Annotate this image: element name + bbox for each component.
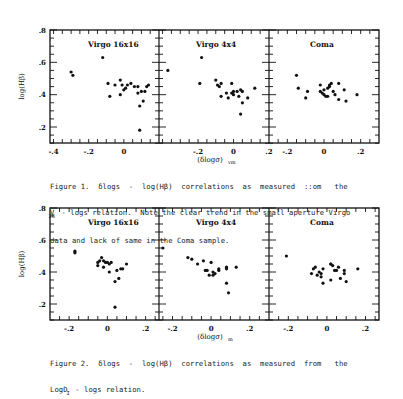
data-point xyxy=(220,82,223,85)
data-point xyxy=(337,82,340,85)
data-point xyxy=(216,83,219,86)
data-point xyxy=(126,83,129,86)
data-point xyxy=(196,262,199,265)
data-point xyxy=(304,96,307,99)
data-point xyxy=(230,82,233,85)
caption-line: Figure 2. δlogs - log(Hβ) correlations a… xyxy=(50,360,348,369)
data-point xyxy=(121,267,124,270)
data-point xyxy=(225,92,228,95)
data-point xyxy=(331,264,334,267)
y-tick-label: .8 xyxy=(39,204,46,213)
data-point xyxy=(227,96,230,99)
x-tick-label: 0 xyxy=(121,147,126,156)
panel-title: Virgo 16x16 xyxy=(87,40,139,49)
x-tick-label: -.2 xyxy=(193,147,203,156)
data-point xyxy=(241,90,244,93)
data-point xyxy=(319,83,322,86)
data-point xyxy=(241,101,244,104)
data-point xyxy=(119,93,122,96)
data-point xyxy=(227,291,230,294)
data-point xyxy=(198,82,201,85)
data-point xyxy=(140,90,143,93)
data-point xyxy=(333,93,336,96)
data-point xyxy=(200,56,203,59)
data-point xyxy=(101,56,104,59)
x-tick-label: -.2 xyxy=(64,324,74,333)
data-point xyxy=(70,70,73,73)
data-point xyxy=(206,269,209,272)
data-point xyxy=(321,267,324,270)
x-tick-label: 0 xyxy=(231,147,236,156)
y-tick-label: .2 xyxy=(39,123,46,132)
panel-virgo-16x16: -.4-.20Virgo 16x16 xyxy=(48,30,150,156)
data-point xyxy=(106,82,109,85)
panel-title: Coma xyxy=(310,40,334,49)
data-point xyxy=(322,88,325,91)
x-tick-label: .2 xyxy=(142,324,149,333)
x-axis-label-subscript: vm xyxy=(227,159,236,165)
caption-subscript: 26 xyxy=(48,213,55,219)
data-point xyxy=(343,272,346,275)
x-tick-label: 0 xyxy=(105,324,110,333)
data-point xyxy=(295,74,298,77)
data-point xyxy=(328,85,331,88)
data-point xyxy=(253,87,256,90)
data-point xyxy=(356,267,359,270)
data-point xyxy=(71,74,74,77)
x-tick-label: -.2 xyxy=(84,147,94,156)
data-point xyxy=(225,282,228,285)
figure-2-caption: Figure 2. δlogs - log(Hβ) correlations a… xyxy=(50,343,348,399)
data-point xyxy=(136,85,139,88)
x-tick-label: .2 xyxy=(357,147,364,156)
y-tick-label: .2 xyxy=(39,300,46,309)
data-point xyxy=(306,90,309,93)
data-point xyxy=(344,100,347,103)
data-point xyxy=(129,82,132,85)
data-point xyxy=(337,266,340,269)
caption-line: V26 - logs relation. Note the clear tren… xyxy=(50,209,350,220)
data-point xyxy=(326,95,329,98)
data-point xyxy=(138,129,141,132)
x-tick-label: -.2 xyxy=(167,324,177,333)
data-point xyxy=(337,98,340,101)
data-point xyxy=(113,280,116,283)
data-point xyxy=(113,306,116,309)
y-tick-label: .8 xyxy=(39,26,46,35)
data-point xyxy=(202,259,205,262)
x-tick-label: .2 xyxy=(362,324,369,333)
data-point xyxy=(321,282,324,285)
caption-line: Figure 1. δlogs - log(Hβ) correlations a… xyxy=(50,183,350,192)
data-point xyxy=(110,261,113,264)
data-point xyxy=(113,83,116,86)
y-axis-label: log(Hβ) xyxy=(18,250,26,277)
data-point xyxy=(239,113,242,116)
data-point xyxy=(213,272,216,275)
data-point xyxy=(329,278,332,281)
data-point xyxy=(133,85,136,88)
data-point xyxy=(246,96,249,99)
x-tick-label: .2 xyxy=(265,147,272,156)
data-point xyxy=(166,69,169,72)
caption-line: LogDI - logs relation. xyxy=(50,386,348,397)
x-axis-label: (δlogσ) xyxy=(197,156,223,164)
data-point xyxy=(100,256,103,259)
data-point xyxy=(217,269,220,272)
data-point xyxy=(190,258,193,261)
data-point xyxy=(108,95,111,98)
data-point xyxy=(310,272,313,275)
data-point xyxy=(235,266,238,269)
caption-line-rest: - logs relation. Note the clear trend in… xyxy=(57,208,350,217)
data-point xyxy=(124,87,127,90)
data-point xyxy=(96,264,99,267)
data-point xyxy=(314,266,317,269)
data-point xyxy=(102,266,105,269)
data-point xyxy=(186,256,189,259)
data-point xyxy=(335,269,338,272)
data-point xyxy=(142,100,145,103)
figure-1-caption: Figure 1. δlogs - log(Hβ) correlations a… xyxy=(50,166,350,254)
panel-title: Virgo 4x4 xyxy=(195,40,236,49)
x-tick-label: 0 xyxy=(324,324,329,333)
data-point xyxy=(115,269,118,272)
data-point xyxy=(285,254,288,257)
y-tick-label: .6 xyxy=(39,58,46,67)
